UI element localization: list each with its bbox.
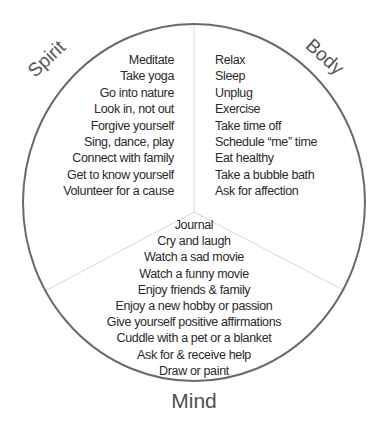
list-item: Draw or paint — [0, 363, 381, 379]
list-item: Volunteer for a cause — [63, 183, 174, 199]
list-item: Sleep — [215, 68, 317, 84]
list-item: Take a bubble bath — [215, 167, 317, 183]
list-item: Ask for affection — [215, 183, 317, 199]
list-item: Watch a funny movie — [0, 266, 381, 282]
list-item: Ask for & receive help — [0, 347, 381, 363]
list-item: Enjoy friends & family — [0, 282, 381, 298]
list-item: Look in, not out — [63, 101, 174, 117]
list-item: Take yoga — [63, 68, 174, 84]
list-item: Connect with family — [63, 150, 174, 166]
list-item: Forgive yourself — [63, 118, 174, 134]
list-item: Give yourself positive affirmations — [0, 314, 381, 330]
list-item: Go into nature — [63, 85, 174, 101]
list-item: Get to know yourself — [63, 167, 174, 183]
list-item: Meditate — [63, 52, 174, 68]
list-item: Cuddle with a pet or a blanket — [0, 330, 381, 346]
list-item: Eat healthy — [215, 150, 317, 166]
list-item: Watch a sad movie — [0, 249, 381, 265]
list-item: Take time off — [215, 118, 317, 134]
list-item: Schedule “me” time — [215, 134, 317, 150]
mind-items-list: Journal Cry and laugh Watch a sad movie … — [0, 217, 381, 379]
list-item: Unplug — [215, 85, 317, 101]
spirit-items-list: Meditate Take yoga Go into nature Look i… — [63, 52, 174, 200]
list-item: Enjoy a new hobby or passion — [0, 298, 381, 314]
mind-label: Mind — [0, 389, 381, 413]
list-item: Exercise — [215, 101, 317, 117]
list-item: Sing, dance, play — [63, 134, 174, 150]
list-item: Journal — [0, 217, 381, 233]
list-item: Cry and laugh — [0, 233, 381, 249]
list-item: Relax — [215, 52, 317, 68]
body-items-list: Relax Sleep Unplug Exercise Take time of… — [215, 52, 317, 200]
